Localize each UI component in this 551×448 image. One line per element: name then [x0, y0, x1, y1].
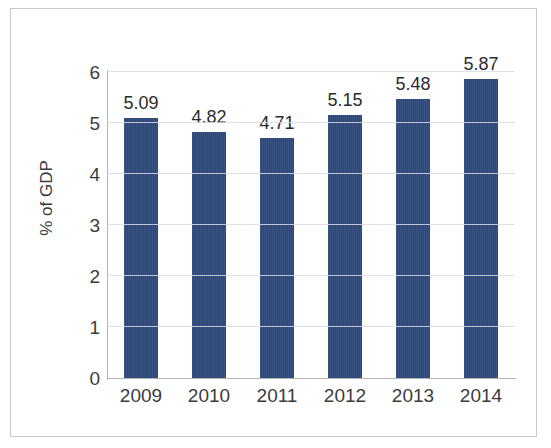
bar-value-label-2013: 5.48 — [379, 75, 447, 93]
y-axis-title: % of GDP — [37, 143, 57, 253]
bar-2014[interactable] — [464, 79, 498, 378]
gridline-1 — [107, 326, 515, 327]
x-tick-label-2010: 2010 — [175, 386, 243, 405]
y-axis-tick-labels: 6 5 4 3 2 1 0 — [70, 0, 100, 448]
chart-figure: % of GDP 6 5 4 3 2 1 0 5.09 4.82 4.71 5.… — [0, 0, 551, 448]
y-tick-label-1: 1 — [74, 318, 100, 337]
y-tick-label-5: 5 — [74, 114, 100, 133]
x-axis-line — [107, 378, 516, 379]
bar-value-label-2014: 5.87 — [447, 55, 515, 73]
gridline-5 — [107, 122, 515, 123]
bar-2011[interactable] — [260, 138, 294, 378]
gridline-3 — [107, 224, 515, 225]
bar-value-label-2009: 5.09 — [107, 94, 175, 112]
x-axis-tick-labels: 2009 2010 2011 2012 2013 2014 — [107, 386, 515, 416]
x-tick-label-2012: 2012 — [311, 386, 379, 405]
y-tick-label-4: 4 — [74, 165, 100, 184]
x-tick-label-2011: 2011 — [243, 386, 311, 405]
x-tick-label-2014: 2014 — [447, 386, 515, 405]
bar-2012[interactable] — [328, 115, 362, 378]
y-tick-label-3: 3 — [74, 216, 100, 235]
y-tick-label-2: 2 — [74, 267, 100, 286]
x-tick-label-2013: 2013 — [379, 386, 447, 405]
bar-value-label-2011: 4.71 — [243, 114, 311, 132]
bar-value-label-2012: 5.15 — [311, 91, 379, 109]
plot-area: 5.09 4.82 4.71 5.15 5.48 5.87 — [107, 72, 515, 378]
bar-2010[interactable] — [192, 132, 226, 378]
gridline-2 — [107, 275, 515, 276]
gridline-4 — [107, 173, 515, 174]
y-tick-label-0: 0 — [74, 369, 100, 388]
bar-value-label-2010: 4.82 — [175, 108, 243, 126]
y-tick-label-6: 6 — [74, 63, 100, 82]
bar-2009[interactable] — [124, 118, 158, 378]
bar-2013[interactable] — [396, 99, 430, 378]
x-tick-label-2009: 2009 — [107, 386, 175, 405]
